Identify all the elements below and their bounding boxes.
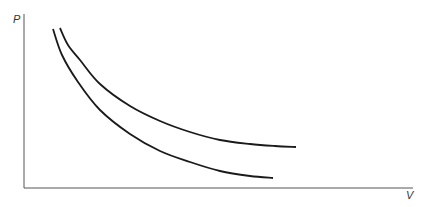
upper-curve: [60, 28, 296, 147]
lower-curve: [53, 29, 273, 178]
y-axis-label: P: [13, 13, 20, 25]
pv-diagram: [0, 0, 424, 207]
x-axis-label: V: [406, 189, 413, 201]
